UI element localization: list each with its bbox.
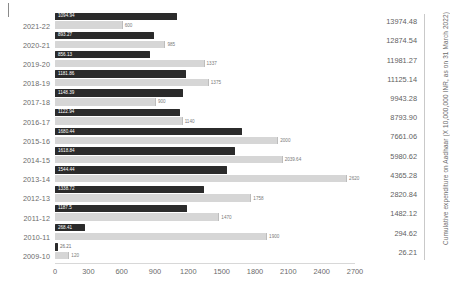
cumulative-value: 1482.12 — [390, 209, 417, 218]
cumulative-row: 11125.14 — [355, 70, 417, 89]
cumulative-value: 4365.28 — [390, 171, 417, 180]
category-label-2014-15: 2014-15 — [2, 156, 50, 165]
bar-end-marker — [282, 156, 283, 163]
cumulative-row: 7661.06 — [355, 127, 417, 146]
bar-allocation[interactable] — [55, 156, 282, 163]
bar-expenditure[interactable] — [55, 128, 242, 135]
x-axis-tick-600: 600 — [115, 267, 127, 276]
bar-allocation[interactable] — [55, 21, 122, 28]
x-axis-tick-2700: 2700 — [347, 267, 363, 276]
cumulative-value: 13974.48 — [386, 17, 417, 26]
cumulative-row: 5980.62 — [355, 147, 417, 166]
bar-end-marker — [182, 117, 183, 124]
bar-allocation[interactable] — [55, 175, 346, 182]
bar-value-expenditure: 1544.44 — [58, 168, 75, 173]
category-label-2013-14: 2013-14 — [2, 175, 50, 184]
cumulative-row: 13974.48 — [355, 12, 417, 31]
bar-expenditure[interactable] — [55, 243, 58, 250]
bar-value-allocation: 600 — [125, 24, 133, 29]
cumulative-row: 4365.28 — [355, 166, 417, 185]
bar-expenditure[interactable] — [55, 186, 204, 193]
bar-end-marker — [155, 98, 156, 105]
bar-value-allocation: 1758 — [253, 197, 263, 202]
bar-allocation[interactable] — [55, 60, 204, 67]
bar-value-expenditure: 1618.84 — [58, 149, 75, 154]
bar-value-expenditure: 856.13 — [58, 53, 72, 58]
bar-value-allocation: 2000 — [280, 139, 290, 144]
category-label-2010-11: 2010-11 — [2, 233, 50, 242]
x-axis-tick-2100: 2100 — [280, 267, 296, 276]
bar-value-expenditure: 1148.39 — [58, 91, 74, 96]
bar-value-allocation: 120 — [71, 254, 79, 259]
bar-allocation[interactable] — [55, 117, 182, 124]
bar-end-marker — [164, 41, 165, 48]
bar-group: 1618.842039.64 — [55, 147, 355, 166]
bar-expenditure[interactable] — [55, 205, 187, 212]
bar-expenditure[interactable] — [55, 166, 227, 173]
bar-group: 268.411900 — [55, 223, 355, 242]
cumulative-value: 5980.62 — [390, 152, 417, 161]
bar-value-allocation: 1337 — [207, 62, 217, 67]
bar-allocation[interactable] — [55, 194, 250, 201]
bar-value-expenditure: 1338.72 — [58, 187, 75, 192]
bar-allocation[interactable] — [55, 137, 277, 144]
bar-expenditure[interactable] — [55, 70, 186, 77]
bar-group: 1122.941140 — [55, 108, 355, 127]
cumulative-value: 7661.06 — [390, 132, 417, 141]
x-axis-line — [55, 263, 355, 264]
secondary-axis-title: Cumulative expenditure on Aadhaar (X 10,… — [438, 12, 452, 262]
cumulative-value: 9943.28 — [390, 94, 417, 103]
bar-allocation[interactable] — [55, 233, 266, 240]
bar-end-marker — [204, 60, 205, 67]
cumulative-row: 8793.90 — [355, 108, 417, 127]
bar-value-allocation: 1375 — [211, 81, 221, 86]
x-axis-tick-1200: 1200 — [180, 267, 196, 276]
bar-chart: 2021-221094.946002020-21893.279852019-20… — [0, 0, 455, 290]
category-label-2009-10: 2009-10 — [2, 252, 50, 261]
bar-allocation[interactable] — [55, 98, 155, 105]
category-label-2019-20: 2019-20 — [2, 60, 50, 69]
x-axis-tick-1800: 1800 — [247, 267, 263, 276]
bar-group: 893.27985 — [55, 31, 355, 50]
bar-value-expenditure: 1181.86 — [58, 72, 74, 77]
bar-value-expenditure: 1680.44 — [58, 130, 75, 135]
category-label-2018-19: 2018-19 — [2, 79, 50, 88]
x-axis-tick-0: 0 — [53, 267, 57, 276]
bar-value-expenditure: 1094.94 — [58, 14, 75, 19]
cumulative-row: 26.21 — [355, 243, 417, 262]
cumulative-value: 11981.27 — [387, 56, 417, 65]
bar-group: 1094.94600 — [55, 12, 355, 31]
bar-end-marker — [68, 252, 69, 259]
bar-value-expenditure: 1187.5 — [58, 206, 72, 211]
bar-allocation[interactable] — [55, 79, 208, 86]
bar-end-marker — [122, 21, 123, 28]
cumulative-row: 11981.27 — [355, 50, 417, 69]
category-label-2017-18: 2017-18 — [2, 98, 50, 107]
bar-group: 1338.721758 — [55, 185, 355, 204]
cumulative-value: 11125.14 — [387, 75, 417, 84]
x-axis: 0300600900120015001800210024002700 — [55, 263, 355, 285]
bar-group: 1148.39900 — [55, 89, 355, 108]
category-label-2021-22: 2021-22 — [2, 22, 50, 31]
bar-end-marker — [218, 213, 219, 220]
cumulative-row: 12874.54 — [355, 31, 417, 50]
bar-value-allocation: 1140 — [185, 120, 195, 125]
bar-allocation[interactable] — [55, 252, 68, 259]
bar-end-marker — [250, 194, 251, 201]
category-label-2015-16: 2015-16 — [2, 137, 50, 146]
bar-expenditure[interactable] — [55, 147, 235, 154]
bar-value-expenditure: 893.27 — [58, 33, 72, 38]
category-label-2020-21: 2020-21 — [2, 41, 50, 50]
bar-allocation[interactable] — [55, 41, 164, 48]
bar-group: 1181.861375 — [55, 70, 355, 89]
bar-value-allocation: 2039.64 — [285, 158, 302, 163]
x-axis-tick-1500: 1500 — [213, 267, 229, 276]
bar-allocation[interactable] — [55, 213, 218, 220]
bar-value-expenditure: 26.21 — [60, 245, 72, 250]
category-label-2012-13: 2012-13 — [2, 194, 50, 203]
cumulative-row: 294.62 — [355, 223, 417, 242]
bar-value-allocation: 1470 — [221, 216, 231, 221]
x-axis-tick-300: 300 — [82, 267, 94, 276]
cumulative-row: 1482.12 — [355, 204, 417, 223]
x-axis-tick-900: 900 — [149, 267, 161, 276]
